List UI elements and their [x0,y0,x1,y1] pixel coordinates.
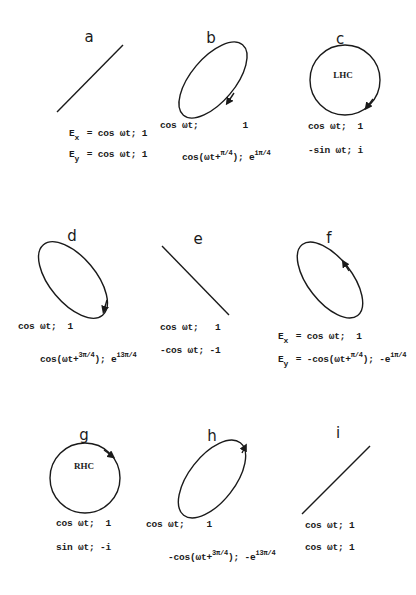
panel-g-ey-equation: sin ωt; -i [56,543,111,553]
panel-i-ey-equation: cos ωt; 1 [305,543,355,553]
panel-g-label: g [79,428,89,443]
ey-tail: ); -e [228,552,256,563]
panel-g-ex-equation: cos ωt; 1 [56,519,111,529]
panel-f-ey-equation: Ey = -cos(ωt+π/4); -eiπ/4 [256,345,406,374]
ey-phase-fraction: π/4 [351,351,363,359]
panel-h-label: h [207,429,217,444]
figure-drawings [0,0,416,595]
ey-symbol: E [278,354,284,365]
panel-i-ex-equation: cos ωt; 1 [305,521,355,531]
ey-tail: ); e [95,354,117,365]
ey-jones-exponent: iπ/4 [390,351,406,359]
ey-phase-fraction: 3π/4 [79,351,95,359]
ey-tail: ); -e [363,354,391,365]
ey-expression: = cos ωt; 1 [81,149,147,160]
panel-e-linear-trace [162,246,229,315]
ey-subscript: y [75,154,80,163]
panel-f-label: f [326,231,331,246]
ey-jones-exponent: iπ/4 [255,149,271,157]
panel-c-label: c [336,32,344,47]
panel-e-ex-equation: cos ωt; 1 [160,323,221,333]
panel-c-ey-equation: -sin ωt; i [308,146,363,156]
ex-subscript: x [284,336,289,345]
ey-phase-fraction: π/4 [221,149,233,157]
panel-d-ex-equation: cos ωt; 1 [18,322,73,332]
panel-b-ey-equation: cos(ωt+π/4); eiπ/4 [160,143,271,172]
panel-b-ex-equation: cos ωt; 1 [160,121,248,131]
panel-e-label: e [193,232,202,247]
panel-a-linear-trace [57,45,123,112]
panel-b-label: b [206,31,216,46]
ex-symbol: E [278,331,284,342]
panel-i-linear-trace [302,446,370,514]
ey-jones-exponent: i3π/4 [256,549,276,557]
panel-d-label: d [67,229,77,244]
panel-a-ey-equation: Ey = cos ωt; 1 [47,140,147,169]
ex-expression: = cos ωt; 1 [290,331,362,342]
ex-symbol: E [69,128,75,139]
panel-a-label: a [84,30,93,45]
ey-expression: -cos(ωt+ [168,552,212,563]
panel-i-label: i [336,426,340,441]
panel-h-ex-equation: cos ωt; 1 [146,520,212,530]
ey-symbol: E [69,149,75,160]
panel-e-ey-equation: -cos ωt; -1 [160,346,221,356]
ey-expression: cos(ωt+ [182,152,221,163]
panel-c-handedness-label: LHC [333,71,353,80]
ey-subscript: y [284,359,289,368]
panel-h-ey-equation: -cos(ωt+3π/4); -ei3π/4 [146,543,276,572]
ey-tail: ); e [233,152,255,163]
ey-expression: cos(ωt+ [40,354,79,365]
ex-expression: = cos ωt; 1 [81,128,147,139]
polarization-figure: a Ex = cos ωt; 1 Ey = cos ωt; 1 b cos ωt… [0,0,416,595]
ey-phase-fraction: 3π/4 [212,549,228,557]
panel-c-ex-equation: cos ωt; 1 [308,122,363,132]
ey-jones-exponent: i3π/4 [117,351,137,359]
ey-expression: = -cos(ωt+ [290,354,351,365]
panel-d-ey-equation: cos(ωt+3π/4); ei3π/4 [18,345,137,374]
panel-g-handedness-label: RHC [74,462,94,471]
